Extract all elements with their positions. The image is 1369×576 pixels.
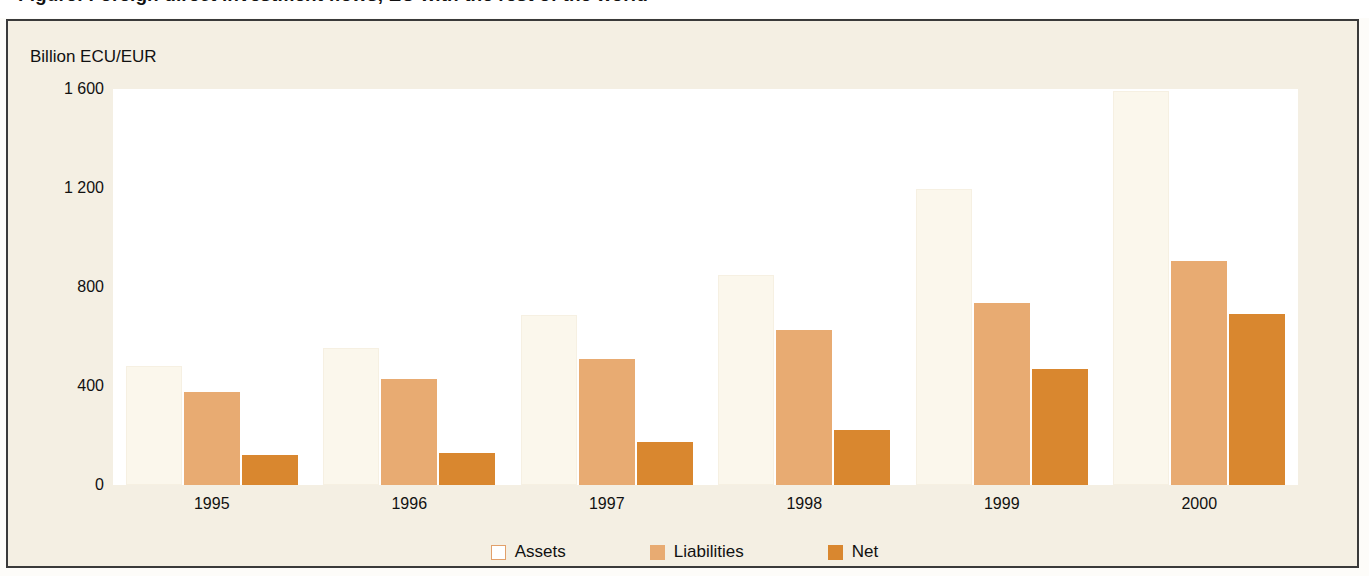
bar-liabilities-1998[interactable] — [776, 330, 832, 485]
bar-group-1997 — [521, 89, 693, 485]
plot-area — [113, 89, 1298, 485]
bar-group-1998 — [718, 89, 890, 485]
y-axis-tick-label: 0 — [95, 476, 104, 494]
figure-title-strip: Figure: Foreign direct investment flows,… — [0, 0, 1369, 18]
bar-group-1995 — [126, 89, 298, 485]
bar-liabilities-1995[interactable] — [184, 392, 240, 485]
legend-swatch-net — [828, 545, 843, 560]
bar-net-1998[interactable] — [834, 430, 890, 485]
x-axis-tick-label: 1999 — [984, 495, 1020, 513]
bar-net-2000[interactable] — [1229, 314, 1285, 485]
bar-assets-1998[interactable] — [718, 275, 774, 485]
bar-assets-2000[interactable] — [1113, 91, 1169, 485]
legend-label-assets: Assets — [515, 542, 566, 562]
y-axis-tick-labels: 04008001 2001 600 — [8, 21, 104, 570]
x-axis-tick-label: 1998 — [786, 495, 822, 513]
y-axis-tick-label: 1 200 — [64, 179, 104, 197]
legend-item-net[interactable]: Net — [828, 542, 878, 562]
x-axis-tick-label: 1996 — [391, 495, 427, 513]
x-axis-tick-labels: 199519961997199819992000 — [113, 495, 1298, 521]
chart-legend: AssetsLiabilitiesNet — [8, 537, 1361, 567]
bar-group-2000 — [1113, 89, 1285, 485]
legend-swatch-assets — [491, 545, 506, 560]
bar-liabilities-1999[interactable] — [974, 303, 1030, 485]
x-axis-tick-label: 2000 — [1181, 495, 1217, 513]
x-axis-tick-label: 1995 — [194, 495, 230, 513]
bar-liabilities-2000[interactable] — [1171, 261, 1227, 485]
page-title: Figure: Foreign direct investment flows,… — [18, 0, 648, 6]
x-axis-tick-label: 1997 — [589, 495, 625, 513]
bar-assets-1999[interactable] — [916, 189, 972, 485]
bar-assets-1997[interactable] — [521, 315, 577, 485]
chart-panel: Billion ECU/EUR 04008001 2001 600 199519… — [6, 19, 1359, 568]
bar-group-1996 — [323, 89, 495, 485]
y-axis-tick-label: 800 — [77, 278, 104, 296]
legend-label-net: Net — [852, 542, 878, 562]
legend-item-liabilities[interactable]: Liabilities — [650, 542, 744, 562]
bar-net-1995[interactable] — [242, 455, 298, 485]
legend-item-assets[interactable]: Assets — [491, 542, 566, 562]
bar-liabilities-1997[interactable] — [579, 359, 635, 485]
y-axis-tick-label: 1 600 — [64, 80, 104, 98]
chart-page: Figure: Foreign direct investment flows,… — [0, 0, 1369, 576]
legend-swatch-liabilities — [650, 545, 665, 560]
legend-label-liabilities: Liabilities — [674, 542, 744, 562]
bar-net-1999[interactable] — [1032, 369, 1088, 485]
bar-assets-1995[interactable] — [126, 366, 182, 485]
bar-net-1997[interactable] — [637, 442, 693, 485]
bar-group-1999 — [916, 89, 1088, 485]
bar-liabilities-1996[interactable] — [381, 379, 437, 485]
bar-net-1996[interactable] — [439, 453, 495, 485]
bar-assets-1996[interactable] — [323, 348, 379, 485]
y-axis-tick-label: 400 — [77, 377, 104, 395]
